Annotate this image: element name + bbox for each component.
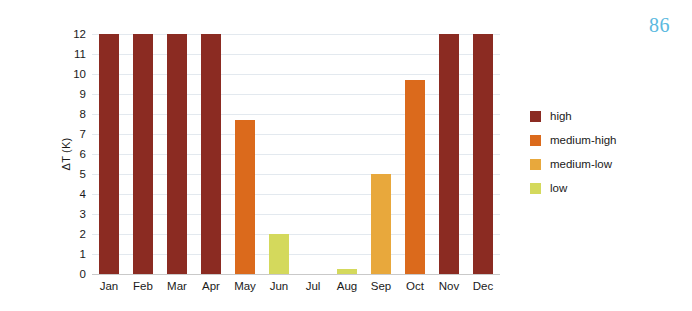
- x-axis-tick-label: Nov: [432, 280, 466, 292]
- x-axis-tick-label: Jun: [262, 280, 296, 292]
- bar-nov: [439, 34, 458, 274]
- legend-label: medium-low: [550, 158, 612, 170]
- y-axis-tick-label: 12: [73, 28, 86, 40]
- legend-swatch: [530, 111, 541, 122]
- x-axis-tick-label: Feb: [126, 280, 160, 292]
- y-axis-tick-label: 9: [80, 88, 86, 100]
- bar-may: [235, 120, 254, 274]
- x-axis-tick-labels: JanFebMarAprMayJunJulAugSepOctNovDec: [92, 280, 500, 292]
- bar-aug: [337, 269, 356, 274]
- x-axis-tick-label: Jul: [296, 280, 330, 292]
- y-axis-tick-label: 7: [80, 128, 86, 140]
- bar-slot: [194, 34, 228, 274]
- bar-slot: [466, 34, 500, 274]
- y-axis-tick-label: 2: [80, 228, 86, 240]
- legend-label: high: [550, 110, 572, 122]
- legend-label: medium-high: [550, 134, 616, 146]
- x-axis-tick-label: May: [228, 280, 262, 292]
- legend-item: low: [530, 176, 616, 200]
- y-axis-tick-label: 10: [73, 68, 86, 80]
- y-axis-tick-label: 1: [80, 248, 86, 260]
- bar-slot: [92, 34, 126, 274]
- chart-page: 86 ΔT (K) 1211109876543210 JanFebMarAprM…: [0, 0, 692, 311]
- legend-swatch: [530, 135, 541, 146]
- y-axis-tick-label: 5: [80, 168, 86, 180]
- y-axis-tick-label: 3: [80, 208, 86, 220]
- bar-apr: [201, 34, 220, 274]
- bar-dec: [473, 34, 492, 274]
- x-axis-tick-label: Oct: [398, 280, 432, 292]
- bar-series: [92, 34, 500, 274]
- bar-slot: [262, 34, 296, 274]
- legend-item: medium-low: [530, 152, 616, 176]
- x-axis-tick-label: Sep: [364, 280, 398, 292]
- bar-jan: [99, 34, 118, 274]
- y-axis-tick-label: 6: [80, 148, 86, 160]
- chart-legend: highmedium-highmedium-lowlow: [530, 104, 616, 200]
- bar-slot: [160, 34, 194, 274]
- x-axis-tick-label: Jan: [92, 280, 126, 292]
- bar-sep: [371, 174, 390, 274]
- bar-oct: [405, 80, 424, 274]
- x-axis-tick-label: Mar: [160, 280, 194, 292]
- bar-slot: [364, 34, 398, 274]
- plot-wrapper: 1211109876543210: [60, 34, 500, 274]
- bar-jun: [269, 234, 288, 274]
- y-axis-tick-label: 0: [80, 268, 86, 280]
- bar-slot: [398, 34, 432, 274]
- y-axis-tick-labels: 1211109876543210: [60, 34, 86, 274]
- legend-swatch: [530, 183, 541, 194]
- x-axis-tick-label: Aug: [330, 280, 364, 292]
- y-axis-tick-label: 8: [80, 108, 86, 120]
- bar-slot: [126, 34, 160, 274]
- bar-feb: [133, 34, 152, 274]
- legend-item: high: [530, 104, 616, 128]
- bar-slot: [432, 34, 466, 274]
- y-axis-tick-label: 4: [80, 188, 86, 200]
- bar-slot: [228, 34, 262, 274]
- page-number: 86: [649, 14, 670, 37]
- bar-slot: [296, 34, 330, 274]
- legend-swatch: [530, 159, 541, 170]
- x-axis-tick-label: Apr: [194, 280, 228, 292]
- y-axis-tick-label: 11: [74, 48, 86, 60]
- legend-item: medium-high: [530, 128, 616, 152]
- bar-slot: [330, 34, 364, 274]
- bar-chart: ΔT (K) 1211109876543210 JanFebMarAprMayJ…: [0, 0, 520, 311]
- legend-label: low: [550, 182, 567, 194]
- gridline: [92, 274, 500, 275]
- plot-area: [92, 34, 500, 274]
- bar-mar: [167, 34, 186, 274]
- x-axis-tick-label: Dec: [466, 280, 500, 292]
